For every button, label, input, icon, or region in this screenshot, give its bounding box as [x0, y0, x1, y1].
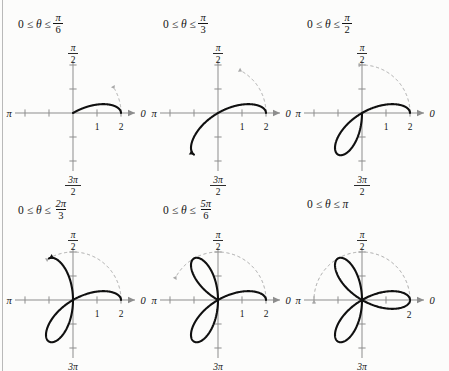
zero-axis-arrow	[128, 110, 135, 116]
x-tick-label-2: 2	[264, 309, 269, 319]
axis-label-pi-over-2-denominator: 2	[71, 55, 76, 65]
panel-pi-2: 0 ≤θ≤π20ππ23π212	[289, 0, 439, 186]
panel-pi-6-plot: 0ππ23π212	[0, 0, 150, 186]
axis-label-pi-over-2-numerator: π	[71, 230, 76, 240]
guide-arc-arrowhead	[312, 300, 316, 303]
axis-label-3pi-over-2-numerator: 3π	[212, 175, 223, 185]
axis-label-pi: π	[295, 295, 301, 306]
polar-axes	[15, 61, 135, 171]
axis-label-pi-over-2-numerator: π	[216, 230, 221, 240]
panel-pi: 0 ≤θ≤π0ππ23π22	[289, 186, 439, 371]
panel-pi-3: 0 ≤θ≤π30ππ23π212	[145, 0, 295, 186]
axis-label-3pi-over-2-numerator: 3π	[356, 175, 367, 185]
axis-label-group: 0ππ23π212	[295, 43, 435, 197]
axis-label-group: 0ππ23π212	[151, 43, 291, 197]
axis-label-pi-over-2-numerator: π	[216, 43, 221, 53]
guide-arc-arrowhead	[238, 68, 243, 74]
zero-axis-arrow	[128, 297, 135, 303]
curve-direction-arrowhead	[189, 150, 196, 157]
axis-label-pi: π	[151, 295, 157, 306]
axis-label-pi-over-2-denominator: 2	[360, 55, 365, 65]
x-tick-label-1: 1	[384, 122, 389, 132]
polar-rose-figure: 0 ≤θ≤π60ππ23π2120 ≤θ≤π30ππ23π2120 ≤θ≤π20…	[0, 0, 449, 371]
axis-label-pi-over-2-denominator: 2	[71, 242, 76, 252]
polar-axes	[160, 248, 280, 358]
axis-label-pi: π	[151, 108, 157, 119]
axis-label-pi-over-2-numerator: π	[360, 43, 365, 53]
axis-label-pi-over-2-denominator: 2	[360, 242, 365, 252]
x-tick-label-1: 1	[240, 309, 245, 319]
panel-5pi-6: 0 ≤θ≤5π60ππ23π212	[145, 186, 295, 371]
polar-axes	[160, 61, 280, 171]
axis-label-3pi-over-2-numerator: 3π	[212, 362, 223, 371]
guide-arc-arrowhead	[173, 275, 179, 280]
axis-label-pi: π	[6, 295, 12, 306]
panel-2pi-3-plot: 0ππ23π212	[0, 186, 150, 371]
x-tick-label-2: 2	[407, 310, 412, 320]
axis-label-zero: 0	[429, 295, 435, 306]
axis-label-zero: 0	[429, 108, 435, 119]
axis-label-pi: π	[6, 108, 12, 119]
x-tick-label-2: 2	[119, 122, 124, 132]
polar-axes	[304, 248, 424, 358]
panel-pi-2-plot: 0ππ23π212	[289, 0, 439, 186]
x-tick-label-2: 2	[119, 309, 124, 319]
axis-label-3pi-over-2-numerator: 3π	[67, 175, 78, 185]
panel-5pi-6-plot: 0ππ23π212	[145, 186, 295, 371]
guide-arc-arrowhead	[111, 85, 117, 90]
axis-label-group: 0ππ23π212	[6, 43, 146, 197]
x-tick-label-1: 1	[95, 122, 100, 132]
rose-curve	[335, 104, 410, 155]
rose-curve	[191, 104, 266, 154]
panel-pi-plot: 0ππ23π22	[289, 186, 439, 371]
zero-axis-arrow	[273, 110, 280, 116]
polar-axes	[304, 61, 424, 171]
zero-axis-arrow	[417, 110, 424, 116]
axis-label-pi-over-2-denominator: 2	[216, 242, 221, 252]
axis-label-pi-over-2-numerator: π	[360, 230, 365, 240]
x-tick-label-2: 2	[264, 122, 269, 132]
axis-label-pi: π	[295, 108, 301, 119]
axis-label-3pi-over-2-numerator: 3π	[356, 362, 367, 371]
zero-axis-arrow	[417, 297, 424, 303]
zero-axis-arrow	[273, 297, 280, 303]
panel-pi-3-plot: 0ππ23π212	[145, 0, 295, 186]
x-tick-label-1: 1	[95, 309, 100, 319]
axis-label-pi-over-2-numerator: π	[71, 43, 76, 53]
polar-axes	[15, 248, 135, 358]
axis-label-3pi-over-2-numerator: 3π	[67, 362, 78, 371]
x-tick-label-1: 1	[240, 122, 245, 132]
x-tick-label-2: 2	[408, 122, 413, 132]
axis-label-pi-over-2-denominator: 2	[216, 55, 221, 65]
panel-2pi-3: 0 ≤θ≤2π30ππ23π212	[0, 186, 150, 371]
panel-pi-6: 0 ≤θ≤π60ππ23π212	[0, 0, 150, 186]
